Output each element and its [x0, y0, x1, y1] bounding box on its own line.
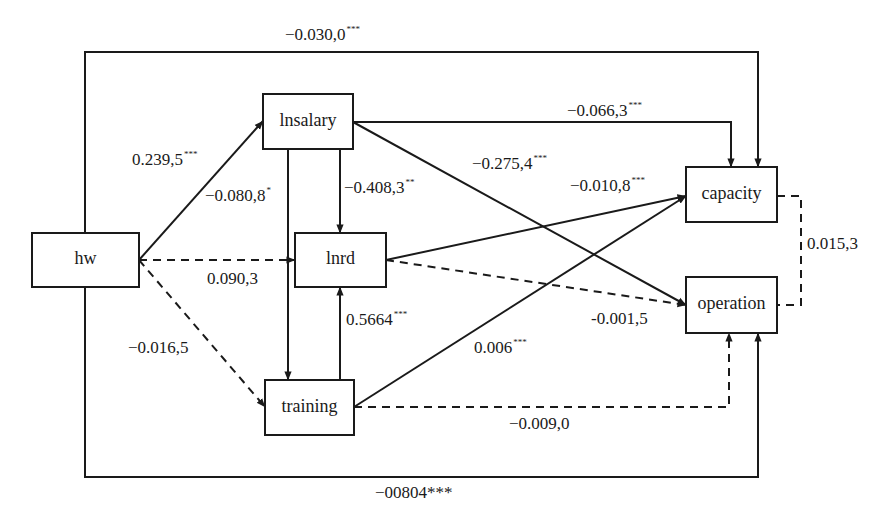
edge-label-training-capacity: 0.006*** — [474, 337, 527, 357]
significance-stars: * — [267, 185, 272, 195]
path-diagram: hwlnsalarylnrdtrainingcapacityoperation … — [0, 0, 892, 523]
edge-label-lnsalary-operation: −0.275,4*** — [472, 153, 548, 173]
significance-stars: *** — [629, 100, 643, 110]
edge-label-training-operation: −0.009,0 — [509, 414, 570, 433]
edge-label-lnrd-operation: -0.001,5 — [591, 309, 648, 328]
significance-stars: *** — [513, 337, 527, 347]
node-label: operation — [698, 293, 766, 313]
edge-label-hw-training: −0.016,5 — [128, 338, 189, 357]
edge-capacity-operation — [777, 196, 801, 305]
edge-label-lnsalary-capacity: −0.066,3*** — [567, 100, 643, 120]
edge-label-lnrd-capacity: −0.010,8*** — [570, 175, 646, 195]
edge-lnrd-operation — [386, 260, 686, 305]
node-operation: operation — [686, 277, 777, 333]
node-training: training — [265, 380, 354, 435]
significance-stars: *** — [534, 153, 548, 163]
edge-lnsalary-operation — [353, 122, 686, 305]
edge-label-hw-operation: −00804*** — [375, 483, 453, 502]
significance-stars: *** — [184, 149, 198, 159]
significance-stars: ** — [406, 177, 416, 187]
edge-label-training-lnrd: 0.5664*** — [346, 309, 408, 329]
significance-stars: *** — [632, 175, 646, 185]
node-label: capacity — [702, 183, 762, 203]
significance-stars: *** — [347, 24, 361, 34]
node-lnrd: lnrd — [295, 233, 386, 287]
edge-training-capacity — [354, 196, 686, 407]
node-capacity: capacity — [686, 167, 777, 222]
edge-label-capacity-operation: 0.015,3 — [807, 234, 858, 253]
edge-lnrd-capacity — [386, 196, 686, 260]
edge-label-hw-lnsalary: 0.239,5*** — [132, 149, 198, 169]
edge-label-hw-capacity: −0.030,0*** — [285, 24, 361, 44]
node-label: training — [282, 396, 338, 416]
edge-label-lnsalary-training: −0.080,8* — [205, 185, 272, 205]
edge-training-operation — [354, 333, 729, 407]
edge-hw-capacity — [85, 52, 758, 233]
node-label: lnsalary — [280, 110, 337, 130]
node-label: lnrd — [326, 248, 355, 268]
edge-label-lnsalary-lnrd: −0.408,3** — [344, 177, 415, 197]
node-lnsalary: lnsalary — [263, 94, 353, 149]
significance-stars: *** — [394, 309, 408, 319]
node-hw: hw — [32, 233, 139, 287]
edge-label-hw-lnrd: 0.090,3 — [207, 269, 258, 288]
node-label: hw — [75, 248, 97, 268]
